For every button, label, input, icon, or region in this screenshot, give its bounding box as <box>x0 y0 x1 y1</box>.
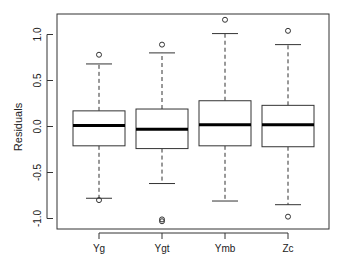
y-axis: -1.0-0.50.00.51.0 <box>32 27 53 227</box>
x-tick-label: Yg <box>93 243 105 254</box>
box-ygt <box>136 42 188 224</box>
outlier-point <box>160 42 165 47</box>
outlier-point <box>286 214 291 219</box>
boxplot-chart: -1.0-0.50.00.51.0 YgYgtYmbZc Residuals <box>0 0 344 261</box>
outlier-point <box>97 52 102 57</box>
y-tick-label: -1.0 <box>32 209 43 227</box>
x-axis: YgYgtYmbZc <box>93 233 294 254</box>
outlier-point <box>286 28 291 33</box>
y-tick-label: 0.0 <box>32 119 43 133</box>
y-axis-label: Residuals <box>12 102 24 151</box>
outlier-point <box>223 17 228 22</box>
x-tick-label: Ygt <box>154 243 169 254</box>
y-tick-label: -0.5 <box>32 163 43 181</box>
box-ymb <box>199 17 251 201</box>
box-zc <box>262 28 314 219</box>
box-yg <box>73 52 125 202</box>
x-tick-label: Zc <box>282 243 293 254</box>
y-tick-label: 1.0 <box>32 27 43 41</box>
y-tick-label: 0.5 <box>32 73 43 87</box>
x-tick-label: Ymb <box>215 243 236 254</box>
boxes <box>73 17 314 223</box>
